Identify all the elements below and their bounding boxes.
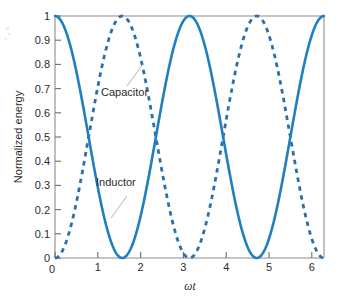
capacitor-label: Capacitor [101,86,148,98]
y-tick-label-06: 0.6 [35,107,50,119]
y-tick-label-1: 1 [44,10,50,22]
x-tick-label-3: 3 [180,261,186,273]
x-tick-label-6: 6 [309,261,315,273]
inductor-leader-line [111,196,127,218]
x-tick-label-1: 1 [95,261,101,273]
y-tick-label-04: 0.4 [35,155,50,167]
y-axis-title: Normalized energy [12,90,24,183]
x-tick-label-5: 5 [266,261,272,273]
y-tick-label-07: 0.7 [35,83,50,95]
y-tick-label-02: 0.2 [35,204,50,216]
y-axis-ticks [55,16,61,258]
x-tick-label-4: 4 [223,261,229,273]
y-tick-label-03: 0.3 [35,179,50,191]
figure-container: 1 0.9 0.8 0.7 0.6 0.5 0.4 0.3 0.2 0.1 0 … [0,0,364,300]
y-tick-label-01: 0.1 [35,228,50,240]
x-tick-label-0: 0 [49,263,55,275]
chart-svg: 1 0.9 0.8 0.7 0.6 0.5 0.4 0.3 0.2 0.1 0 … [0,0,364,300]
inductor-label: Inductor [96,176,136,188]
capacitor-series-line [55,16,324,258]
y-tick-label-05: 0.5 [35,131,50,143]
y-tick-label-09: 0.9 [35,34,50,46]
x-axis-title: ωt [184,280,196,292]
inductor-series-line [55,16,324,258]
capacitor-leader-line [127,64,143,86]
y-tick-label-08: 0.8 [35,58,50,70]
x-tick-label-2: 2 [138,261,144,273]
